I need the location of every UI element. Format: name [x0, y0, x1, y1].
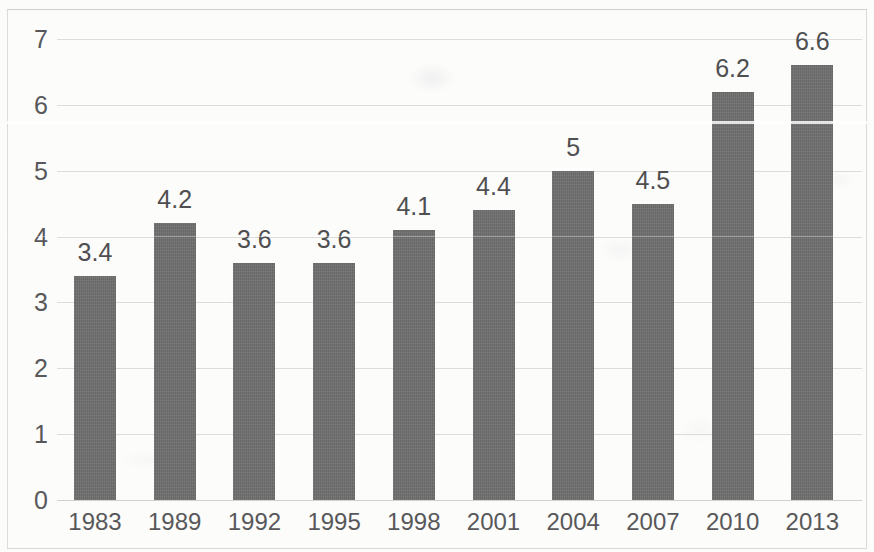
gridline-7	[57, 39, 862, 40]
bar	[233, 263, 275, 500]
bar-value-label: 6.2	[698, 54, 768, 83]
bar	[552, 171, 594, 500]
bar-value-label: 3.6	[219, 225, 289, 254]
bar-value-label: 5	[538, 133, 608, 162]
bar-value-label: 4.5	[618, 166, 688, 195]
gridline-0	[57, 500, 862, 501]
y-tick-label: 2	[14, 354, 48, 383]
bar-value-label: 3.4	[60, 238, 130, 267]
bar-chart-figure: 01234567 3.44.23.63.64.14.454.56.26.6 19…	[0, 0, 874, 552]
x-tick-label: 1992	[209, 508, 299, 536]
x-axis: 1983198919921995199820012004200720102013	[57, 505, 862, 545]
y-tick-label: 7	[14, 25, 48, 54]
bar-value-label: 4.2	[140, 185, 210, 214]
x-tick-label: 1998	[369, 508, 459, 536]
x-tick-label: 1989	[130, 508, 220, 536]
bar	[74, 276, 116, 500]
bar	[473, 210, 515, 500]
bar	[154, 223, 196, 500]
bar	[791, 65, 833, 500]
x-tick-label: 2004	[528, 508, 618, 536]
bar-value-label: 4.1	[379, 192, 449, 221]
y-tick-label: 6	[14, 90, 48, 119]
y-tick-label: 5	[14, 156, 48, 185]
x-tick-label: 1983	[50, 508, 140, 536]
bar-value-label: 3.6	[299, 225, 369, 254]
y-tick-label: 1	[14, 420, 48, 449]
bar	[632, 204, 674, 500]
bar	[712, 92, 754, 500]
plot-area: 3.44.23.63.64.14.454.56.26.6	[57, 39, 862, 500]
y-tick-label: 0	[14, 486, 48, 515]
bar-value-label: 6.6	[777, 27, 847, 56]
bar-value-label: 4.4	[459, 172, 529, 201]
x-tick-label: 1995	[289, 508, 379, 536]
x-tick-label: 2001	[449, 508, 539, 536]
bar	[313, 263, 355, 500]
y-tick-label: 3	[14, 288, 48, 317]
x-tick-label: 2013	[767, 508, 857, 536]
y-tick-label: 4	[14, 222, 48, 251]
bar	[393, 230, 435, 500]
x-tick-label: 2007	[608, 508, 698, 536]
x-tick-label: 2010	[688, 508, 778, 536]
y-axis: 01234567	[0, 39, 48, 500]
